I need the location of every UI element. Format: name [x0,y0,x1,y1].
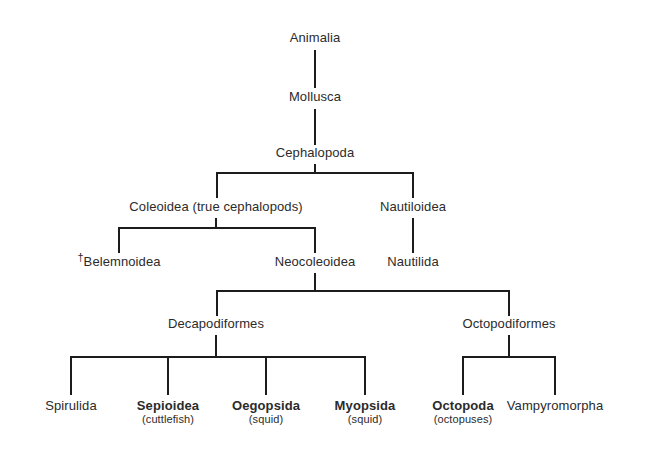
node-myopsida: Myopsida (squid) [335,398,396,426]
node-oegopsida-common-name: (squid) [232,413,300,426]
node-belemnoidea-name: Belemnoidea [84,254,161,269]
node-octopoda: Octopoda (octopuses) [432,398,493,426]
node-octopoda-label: Octopoda [432,398,493,413]
connector-to-sepioidea [167,356,169,395]
node-cephalopoda-label: Cephalopoda [276,145,354,160]
cladogram-canvas: Animalia Mollusca Cephalopoda Coleoidea … [0,0,648,450]
connector-decapodiformes-stem [215,335,217,357]
node-octopoda-common-name: (octopuses) [432,413,493,426]
node-sepioidea-common-name: (cuttlefish) [137,413,199,426]
node-animalia-label: Animalia [290,30,341,45]
connector-animalia-mollusca [314,50,316,88]
node-oegopsida-label: Oegopsida [232,398,300,413]
node-decapodiformes: Decapodiformes [168,316,264,331]
node-octopodiformes: Octopodiformes [462,316,555,331]
connector-neocoleoidea-stem [314,273,316,291]
connector-to-octopodiformes [508,290,510,316]
node-myopsida-label: Myopsida [335,398,396,413]
node-sepioidea-label: Sepioidea [137,398,199,413]
connector-mollusca-cephalopoda [314,109,316,145]
connector-to-octopoda [462,356,464,395]
connector-to-belemnoidea [118,227,120,253]
connector-octopodiformes-stem [508,335,510,357]
node-myopsida-common-name: (squid) [335,413,396,426]
node-spirulida: Spirulida [45,398,97,413]
connector-to-neocoleoidea [314,227,316,253]
node-nautiloidea: Nautiloidea [380,199,446,214]
connector-nautiloidea-nautilida [412,218,414,253]
connector-to-myopsida [364,356,366,395]
node-nautilida: Nautilida [387,254,439,269]
connector-to-decapodiformes [216,290,218,316]
node-nautiloidea-label: Nautiloidea [380,199,446,214]
node-spirulida-label: Spirulida [45,398,97,413]
bracket-decapodiformes-children [70,356,366,358]
node-mollusca-label: Mollusca [289,89,341,104]
node-nautilida-label: Nautilida [387,254,439,269]
connector-to-nautiloidea [412,172,414,198]
bracket-cephalopoda-children [216,172,414,174]
node-animalia: Animalia [290,30,341,45]
node-decapodiformes-label: Decapodiformes [168,316,264,331]
connector-to-coleoidea [216,172,218,198]
bracket-neocoleoidea-children [216,290,510,292]
node-vampyromorpha: Vampyromorpha [507,398,603,413]
node-coleoidea-label: Coleoidea (true cephalopods) [129,199,302,214]
connector-to-vampyromorpha [554,356,556,395]
node-neocoleoidea-label: Neocoleoidea [275,254,356,269]
bracket-coleoidea-children [118,227,316,229]
connector-to-spirulida [70,356,72,395]
node-coleoidea: Coleoidea (true cephalopods) [129,199,302,214]
node-belemnoidea: †Belemnoidea [77,254,160,269]
node-vampyromorpha-label: Vampyromorpha [507,398,603,413]
bracket-octopodiformes-children [462,356,556,358]
node-oegopsida: Oegopsida (squid) [232,398,300,426]
connector-to-oegopsida [265,356,267,395]
node-cephalopoda: Cephalopoda [276,145,354,160]
node-mollusca: Mollusca [289,89,341,104]
node-octopodiformes-label: Octopodiformes [462,316,555,331]
node-belemnoidea-label: †Belemnoidea [77,254,160,269]
node-neocoleoidea: Neocoleoidea [275,254,356,269]
node-sepioidea: Sepioidea (cuttlefish) [137,398,199,426]
